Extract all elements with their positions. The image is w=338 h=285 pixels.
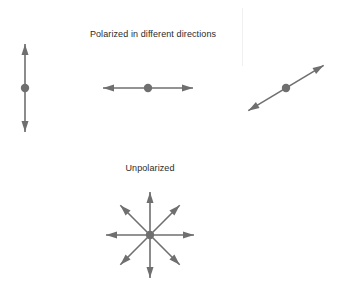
diagonal-polarization-arrow-head-negative	[248, 102, 259, 111]
polarization-diagram: Polarized in different directions Unpola…	[0, 0, 338, 285]
unpolarized-center-dot	[146, 231, 154, 239]
unpolarized-arrow-90deg-head-positive	[147, 192, 154, 203]
unpolarized-arrow-0deg-head-positive	[183, 232, 194, 239]
vertical-polarization-arrow-head-positive	[22, 44, 29, 55]
vertical-polarization-arrow-head-negative	[22, 121, 29, 132]
diagonal-polarization-arrow-dot	[282, 84, 290, 92]
unpolarized-arrow-0deg-head-negative	[106, 232, 117, 239]
horizontal-polarization-arrow-head-negative	[103, 85, 114, 92]
unpolarized-arrow-90deg-head-negative	[147, 267, 154, 278]
vertical-polarization-arrow-dot	[21, 84, 29, 92]
diagonal-polarization-arrow-head-positive	[312, 65, 323, 74]
arrow-canvas	[0, 0, 338, 285]
horizontal-polarization-arrow-dot	[144, 84, 152, 92]
horizontal-polarization-arrow-head-positive	[182, 85, 193, 92]
